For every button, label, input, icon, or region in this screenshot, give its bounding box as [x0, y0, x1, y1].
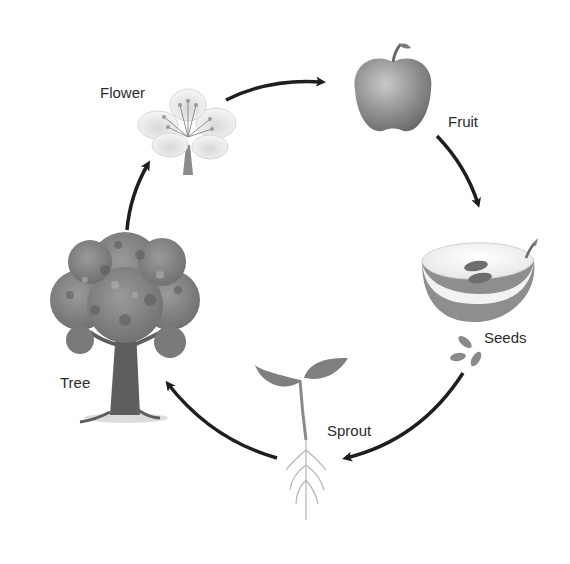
life-cycle-diagram: Flower Fruit Seeds Sprout Tree — [0, 0, 570, 564]
halved-apple-seeds-icon — [422, 238, 538, 322]
arrow-sprout-to-tree — [168, 384, 277, 458]
stage-label-fruit: Fruit — [448, 113, 478, 130]
diagram-canvas — [0, 0, 570, 564]
seeds-icon — [449, 334, 483, 368]
arrow-flower-to-fruit — [226, 81, 322, 100]
flower-icon — [138, 89, 236, 175]
stage-label-tree: Tree — [60, 374, 90, 391]
stage-label-sprout: Sprout — [327, 422, 371, 439]
apple-icon — [355, 44, 432, 132]
sprout-icon — [255, 358, 348, 520]
stage-label-flower: Flower — [100, 84, 145, 101]
arrow-tree-to-flower — [127, 164, 148, 230]
arrow-seeds-to-sprout — [346, 373, 463, 458]
stage-label-seeds: Seeds — [484, 329, 527, 346]
arrow-fruit-to-seeds — [437, 136, 478, 204]
